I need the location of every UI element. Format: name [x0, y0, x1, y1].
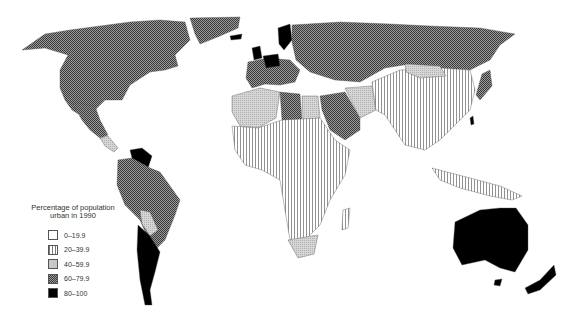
region-sweden — [278, 24, 292, 50]
region-new-zealand — [525, 265, 556, 294]
legend-item-3: 60–79.9 — [48, 272, 118, 287]
legend-item-0: 0–19.9 — [48, 228, 118, 243]
region-libya — [280, 92, 302, 120]
legend-items: 0–19.9 20–39.9 40–59.9 60–79.9 80–100 — [48, 228, 118, 301]
legend-item-4: 80–100 — [48, 286, 118, 301]
swatch-solid — [48, 288, 58, 298]
region-algeria — [232, 88, 280, 128]
region-australia — [453, 208, 528, 272]
region-north-america — [22, 20, 190, 118]
region-tasmania — [494, 279, 502, 286]
region-egypt — [302, 96, 320, 120]
swatch-white — [48, 230, 58, 240]
region-indonesia — [432, 168, 522, 200]
swatch-crosshatch — [48, 274, 58, 284]
legend-title: Percentage of population urban in 1990 — [28, 204, 118, 220]
region-iceland — [230, 34, 242, 40]
region-germany — [263, 54, 280, 68]
region-madagascar — [342, 208, 350, 230]
legend: Percentage of population urban in 1990 0… — [28, 204, 118, 301]
region-japan — [476, 70, 492, 100]
legend-item-2: 40–59.9 — [48, 257, 118, 272]
swatch-light-stipple — [48, 259, 58, 269]
swatch-vertical-stripes — [48, 245, 58, 255]
legend-item-1: 20–39.9 — [48, 243, 118, 258]
region-sub-saharan-africa — [232, 118, 350, 245]
region-central-america — [100, 136, 118, 152]
region-asia — [372, 68, 475, 150]
region-mexico — [72, 102, 108, 138]
region-taiwan — [470, 116, 474, 125]
region-uk — [252, 46, 262, 60]
